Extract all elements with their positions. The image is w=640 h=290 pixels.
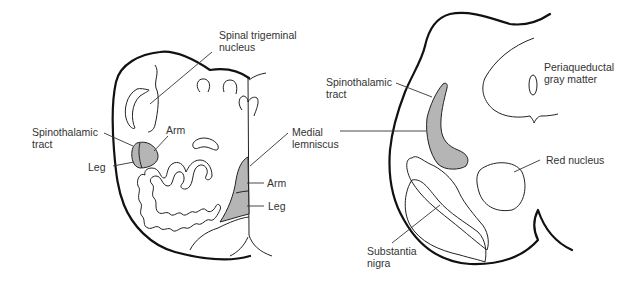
label-leg-left: Leg <box>88 161 106 173</box>
cerebral-aqueduct <box>529 75 537 95</box>
label-substantia-nigra: Substantia nigra <box>367 245 417 269</box>
spinal-trigeminal-nucleus <box>125 89 149 129</box>
label-leg-right: Leg <box>268 200 286 212</box>
medial-lemniscus-left <box>220 157 249 222</box>
label-medial-lemniscus: Medial lemniscus <box>292 126 339 150</box>
label-red-nucleus: Red nucleus <box>546 154 604 166</box>
label-spinothalamic-tract-left: Spinothalamic tract <box>32 126 98 150</box>
label-arm-right: Arm <box>267 177 286 189</box>
medulla-section <box>104 52 288 260</box>
midbrain-section <box>340 13 572 264</box>
midbrain-outline <box>390 13 572 264</box>
label-periaqueductal-gray-matter: Periaqueductal gray matter <box>544 61 614 85</box>
inferior-olive <box>137 160 220 231</box>
spinothalamic-tract-left <box>132 142 158 168</box>
label-spinal-trigeminal-nucleus: Spinal trigeminal nucleus <box>219 29 297 53</box>
medulla-midline <box>248 78 272 256</box>
substantia-nigra <box>405 180 486 262</box>
spinothalamic-tract-right <box>427 83 468 169</box>
label-arm-left: Arm <box>166 124 185 136</box>
label-spinothalamic-tract-right: Spinothalamic tract <box>326 76 392 100</box>
